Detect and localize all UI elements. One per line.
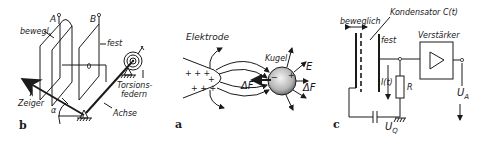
terminal-b-icon: [97, 13, 100, 16]
label-sphere: Kugel: [265, 54, 288, 63]
amplifier-box: [420, 42, 453, 79]
panel-c-measurement-circuit: beweglich Kondensator C(t) fest Verstärk…: [333, 8, 469, 135]
label-movable: bewegl.: [20, 27, 51, 36]
label-amplifier: Verstärker: [418, 31, 460, 40]
label-force-left: ΔF: [240, 80, 254, 91]
panel-label-a: a: [175, 118, 182, 131]
amplifier-triangle-icon: [430, 52, 444, 69]
label-axis: Achse: [112, 109, 137, 118]
label-resistor: R: [407, 83, 413, 92]
label-electrode: Elektrode: [186, 32, 229, 42]
resistor-icon: [396, 76, 404, 98]
panel-label-c: c: [333, 118, 340, 131]
charges-plus-bottom: + + +: [191, 84, 216, 93]
label-field-e: E: [306, 61, 313, 72]
label-fixed: fest: [107, 39, 123, 48]
label-pointer: Zeiger: [17, 99, 45, 108]
label-angle: α: [51, 106, 57, 115]
label-movable: beweglich: [340, 17, 380, 26]
charges-minus-left: −: [271, 73, 278, 82]
label-plate-b: B: [90, 14, 96, 24]
fixed-plate-b: [79, 13, 101, 100]
panel-a-electrode-sphere: + + + + + + + − + Elektrode Kugel E ΔF Δ…: [175, 32, 316, 131]
terminal-a-icon: [57, 13, 60, 16]
label-torsion-springs-2: federn: [121, 90, 147, 99]
charges-plus-top: + + +: [185, 69, 210, 78]
label-fixed: fest: [381, 36, 397, 45]
output-terminal-icon: [460, 58, 463, 61]
label-current: I(t): [381, 78, 393, 87]
label-force-right: ΔF: [302, 82, 316, 93]
label-source-voltage: UQ: [385, 121, 398, 135]
electrometer-figure: A B bewegl. fest Zeiger α Torsions- fede…: [0, 0, 481, 141]
label-capacitor: Kondensator C(t): [390, 8, 458, 17]
panel-label-b: b: [19, 119, 27, 132]
label-torsion-springs-1: Torsions-: [117, 81, 153, 90]
charges-plus-mid: +: [208, 75, 215, 84]
label-output-voltage: UA: [457, 87, 469, 101]
angle-arc: [59, 103, 66, 124]
panel-b-quadrant-electrometer: A B bewegl. fest Zeiger α Torsions- fede…: [17, 13, 153, 132]
label-plate-a: A: [49, 14, 56, 24]
charges-plus-right: +: [288, 71, 295, 80]
